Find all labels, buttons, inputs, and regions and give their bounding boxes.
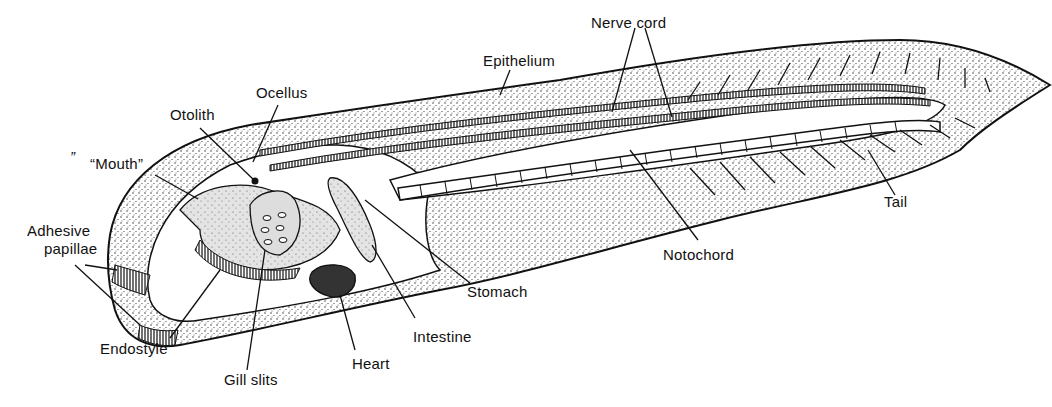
label-otolith: Otolith [170,106,215,123]
label-mouth: “Mouth” [90,155,143,172]
stray-mark: ” [70,148,75,165]
label-stomach: Stomach [467,283,528,300]
label-notochord: Notochord [663,246,734,263]
label-nerve-cord: Nerve cord [591,14,666,31]
label-adhesive-papillae-line2: papillae [44,240,97,257]
label-endostyle: Endostyle [100,340,168,357]
tunicate-larva-diagram: Epithelium Nerve cord Ocellus Otolith ” … [0,0,1052,407]
label-heart: Heart [352,355,390,372]
label-adhesive-papillae-line1: Adhesive [27,222,90,239]
label-ocellus: Ocellus [256,84,307,101]
label-gill-slits: Gill slits [224,371,278,388]
label-tail: Tail [884,193,907,210]
label-epithelium: Epithelium [483,52,555,69]
label-intestine: Intestine [413,328,472,345]
